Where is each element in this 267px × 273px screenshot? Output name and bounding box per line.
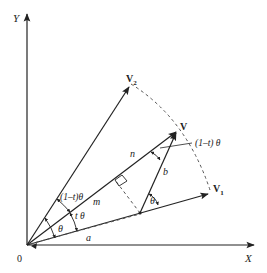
label-one-minus-t-theta-inner: (1–t)θ: [60, 192, 83, 203]
x-axis-label: X: [244, 252, 253, 264]
label-m: m: [93, 196, 100, 207]
label-t-theta: t θ: [75, 211, 85, 221]
foot-point: [138, 211, 141, 214]
label-b: b: [163, 166, 168, 177]
rotation-arc: [131, 84, 210, 190]
origin-label: 0: [17, 253, 22, 264]
vectors: [27, 87, 208, 249]
label-v: V: [180, 121, 188, 132]
arc-one-minus-t-theta-tip: [151, 152, 160, 160]
label-one-minus-t-theta-tip: (1–t) θ: [195, 138, 221, 149]
label-a: a: [86, 232, 91, 243]
y-axis-label: Y: [13, 12, 21, 24]
label-theta-origin: θ: [58, 223, 63, 234]
label-v1: V1: [213, 183, 224, 197]
vector-diagram: Y X 0 V2: [0, 0, 267, 273]
vector-v: [27, 132, 176, 245]
label-leader: [160, 143, 192, 148]
label-n: n: [130, 148, 135, 159]
label-theta-foot: θ: [150, 195, 155, 206]
